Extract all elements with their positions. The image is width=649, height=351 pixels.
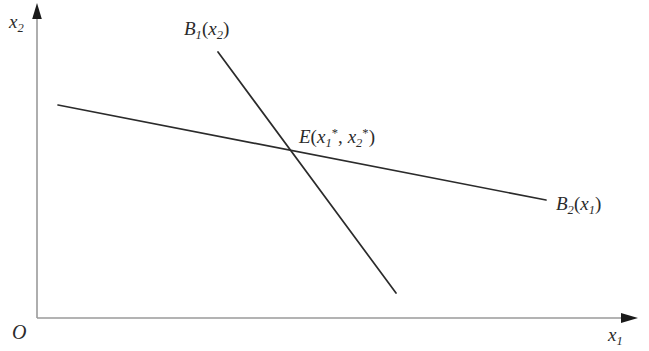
curve-b2-line [58,105,546,200]
curve-b1-line [218,52,396,293]
curve-b2-label: B2(x1) [556,194,601,213]
equilibrium-label: E(x1*,x2*) [299,127,375,146]
x-axis-arrowhead [621,313,638,323]
y-axis-label: x2 [9,12,24,31]
x-axis-label: x1 [608,325,623,344]
y-axis-arrowhead [32,3,42,19]
curve-b1-label: B1(x2) [184,19,229,38]
origin-label: O [12,322,26,342]
equilibrium-diagram-canvas [0,0,649,351]
